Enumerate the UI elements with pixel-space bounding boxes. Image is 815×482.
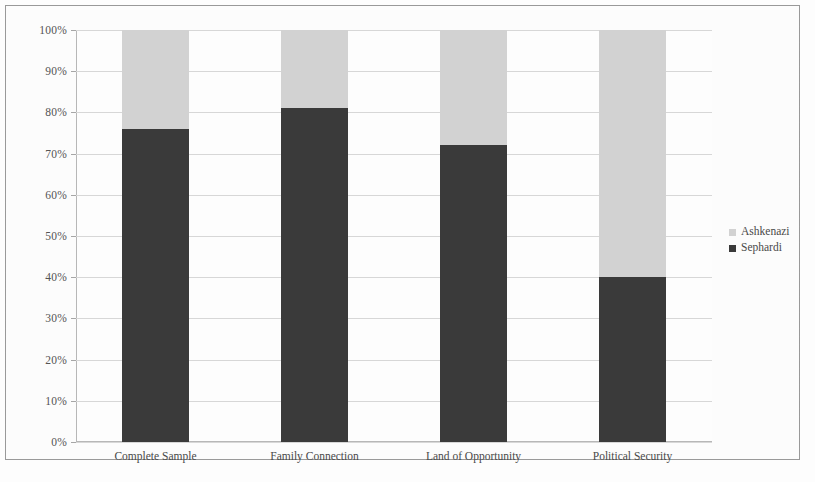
bar-segment-ashkenazi: [281, 30, 348, 108]
y-axis-tick-label: 40%: [45, 271, 67, 283]
legend-label: Sephardi: [741, 242, 782, 254]
x-axis-tick-label: Complete Sample: [114, 450, 196, 462]
y-axis-tick-mark: [71, 195, 76, 196]
y-axis-tick-label: 90%: [45, 65, 67, 77]
bar-segment-ashkenazi: [440, 30, 507, 145]
y-axis-tick-label: 0%: [51, 436, 67, 448]
y-axis-tick-label: 100%: [39, 24, 67, 36]
gridline: [76, 442, 712, 443]
stacked-bar: [281, 30, 348, 442]
stacked-bar: [599, 30, 666, 442]
y-axis-tick-mark: [71, 154, 76, 155]
legend-item: Ashkenazi: [729, 224, 790, 240]
stacked-bar: [122, 30, 189, 442]
chart-figure: 0%10%20%30%40%50%60%70%80%90%100% Comple…: [0, 0, 815, 482]
x-axis-tick-label: Land of Opportunity: [426, 450, 521, 462]
y-axis-tick-mark: [71, 442, 76, 443]
y-axis-tick-mark: [71, 318, 76, 319]
bar-segment-ashkenazi: [599, 30, 666, 277]
y-axis-tick-label: 30%: [45, 312, 67, 324]
y-axis-tick-mark: [71, 71, 76, 72]
y-axis-tick-mark: [71, 401, 76, 402]
plot-area: 0%10%20%30%40%50%60%70%80%90%100% Comple…: [76, 30, 712, 442]
bar-segment-ashkenazi: [122, 30, 189, 129]
legend-swatch-icon: [729, 245, 736, 252]
y-axis-tick-mark: [71, 112, 76, 113]
y-axis-tick-mark: [71, 236, 76, 237]
y-axis-tick-mark: [71, 360, 76, 361]
legend-item: Sephardi: [729, 240, 790, 256]
y-axis-tick-label: 60%: [45, 189, 67, 201]
legend-swatch-icon: [729, 229, 736, 236]
bar-segment-sephardi: [122, 129, 189, 442]
stacked-bar: [440, 30, 507, 442]
y-axis-tick-label: 80%: [45, 106, 67, 118]
y-axis-tick-label: 50%: [45, 230, 67, 242]
y-axis-tick-label: 10%: [45, 395, 67, 407]
bar-segment-sephardi: [599, 277, 666, 442]
y-axis-tick-label: 70%: [45, 148, 67, 160]
bar-segment-sephardi: [281, 108, 348, 442]
x-axis-tick-label: Political Security: [593, 450, 673, 462]
legend-label: Ashkenazi: [741, 226, 790, 238]
y-axis-tick-mark: [71, 30, 76, 31]
chart-legend: AshkenaziSephardi: [729, 224, 790, 256]
y-axis-tick-mark: [71, 277, 76, 278]
y-axis-tick-label: 20%: [45, 354, 67, 366]
x-axis-tick-label: Family Connection: [270, 450, 358, 462]
bar-segment-sephardi: [440, 145, 507, 442]
